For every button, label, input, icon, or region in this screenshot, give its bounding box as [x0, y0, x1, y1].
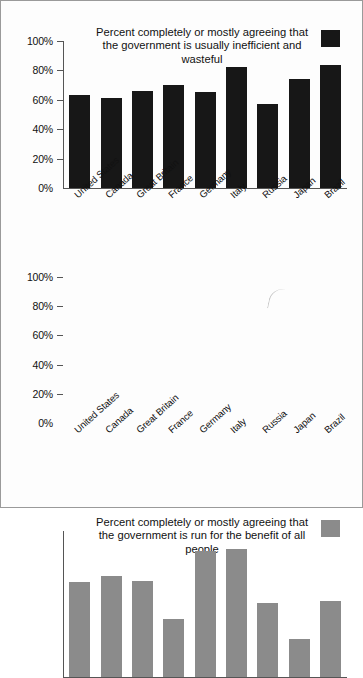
bar — [257, 603, 278, 677]
bar — [257, 104, 278, 188]
bar — [132, 581, 153, 677]
chart-run-for-benefit-of-all: Percent completely or mostly agreeing th… — [1, 255, 363, 509]
bar — [132, 91, 153, 188]
y-tick-mark — [57, 394, 63, 395]
y-tick-label: 0% — [5, 418, 53, 428]
x-tick-label: Japan — [291, 410, 317, 435]
bar — [320, 601, 341, 677]
y-tick-mark — [57, 306, 63, 307]
y-tick-mark — [57, 365, 63, 366]
x-tick-label: Germany — [197, 401, 233, 435]
bar — [69, 582, 90, 677]
y-tick-label: 40% — [5, 124, 53, 134]
chart-bottom-plot-area — [64, 531, 346, 677]
y-tick-label: 60% — [5, 95, 53, 105]
bar — [289, 639, 310, 677]
bar — [163, 619, 184, 677]
y-tick-label: 60% — [5, 330, 53, 340]
y-tick-label: 20% — [5, 389, 53, 399]
bar — [320, 65, 341, 188]
y-tick-label: 0% — [5, 183, 53, 193]
x-tick-label: Brazil — [322, 411, 347, 435]
x-tick-label: France — [166, 407, 195, 435]
y-tick-label: 40% — [5, 360, 53, 370]
y-tick-label: 20% — [5, 154, 53, 164]
y-tick-label: 100% — [5, 36, 53, 46]
chart-inefficient-wasteful: Percent completely or mostly agreeing th… — [1, 1, 363, 255]
bar — [195, 551, 216, 677]
bar — [226, 549, 247, 677]
bar — [195, 92, 216, 188]
y-tick-label: 100% — [5, 272, 53, 282]
x-tick-label: Russia — [260, 408, 289, 435]
y-tick-mark — [57, 277, 63, 278]
y-tick-label: 80% — [5, 301, 53, 311]
bar — [289, 79, 310, 188]
y-tick-label: 80% — [5, 65, 53, 75]
y-tick-mark — [57, 335, 63, 336]
bar — [69, 95, 90, 188]
x-tick-label: Italy — [228, 416, 248, 436]
bar — [101, 576, 122, 677]
